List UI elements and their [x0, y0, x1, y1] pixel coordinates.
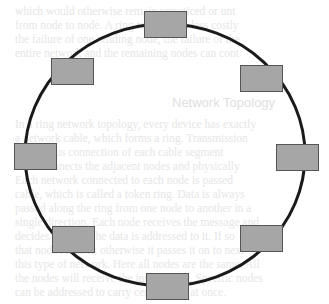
- node-left: [15, 144, 57, 170]
- node-right: [277, 145, 319, 171]
- node-bottom-right: [241, 226, 283, 252]
- node-bottom: [147, 274, 189, 300]
- ring-topology-diagram: [0, 0, 329, 304]
- node-top: [145, 12, 187, 38]
- ring-nodes: [15, 12, 319, 300]
- node-top-left: [52, 59, 94, 85]
- node-bottom-left: [53, 227, 95, 253]
- node-top-right: [241, 66, 283, 92]
